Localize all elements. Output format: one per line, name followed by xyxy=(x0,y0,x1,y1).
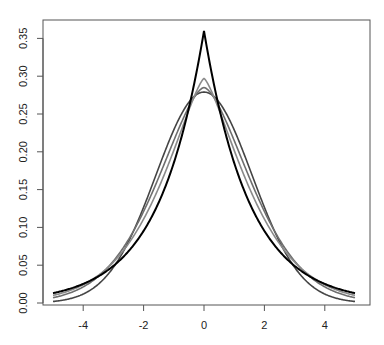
curves xyxy=(53,31,355,302)
y-tick-label: 0.30 xyxy=(17,65,29,86)
x-tick-label: 0 xyxy=(201,319,207,331)
y-tick-label: 0.00 xyxy=(17,292,29,313)
x-tick-label: 2 xyxy=(261,319,267,331)
y-tick-label: 0.05 xyxy=(17,254,29,275)
density-chart: 0.000.050.100.150.200.250.300.35 -4-2024 xyxy=(0,0,384,345)
y-tick-label: 0.35 xyxy=(17,28,29,49)
plot-frame xyxy=(43,20,370,305)
y-tick-label: 0.20 xyxy=(17,141,29,162)
y-axis: 0.000.050.100.150.200.250.300.35 xyxy=(17,28,43,314)
x-tick-label: -4 xyxy=(78,319,88,331)
density-curve-1 xyxy=(53,31,355,293)
density-curve-3 xyxy=(53,88,355,298)
density-curve-2 xyxy=(53,78,355,295)
x-tick-label: 4 xyxy=(322,319,328,331)
x-tick-label: -2 xyxy=(139,319,149,331)
y-tick-label: 0.10 xyxy=(17,217,29,238)
density-curve-4 xyxy=(53,92,355,301)
y-tick-label: 0.25 xyxy=(17,103,29,124)
x-axis: -4-2024 xyxy=(78,305,328,331)
y-tick-label: 0.15 xyxy=(17,179,29,200)
